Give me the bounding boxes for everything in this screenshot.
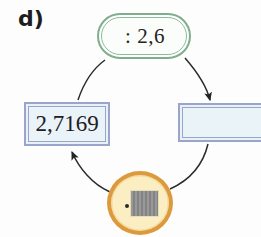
- display-node[interactable]: : 2,6: [97, 13, 191, 59]
- edge-device-to-result: [72, 152, 110, 192]
- edge-display-to-empty: [185, 58, 210, 100]
- empty-box[interactable]: [178, 103, 261, 142]
- figure-canvas: d) : 2,6 2,7169: [0, 0, 261, 237]
- result-box-label: 2,7169: [35, 111, 98, 137]
- display-node-label: : 2,6: [123, 24, 165, 49]
- calculator-chip-icon: [130, 190, 159, 217]
- empty-box-frame: [182, 107, 261, 138]
- result-box[interactable]: 2,7169: [24, 102, 110, 146]
- edge-result-to-display: [78, 60, 105, 100]
- device-node[interactable]: [107, 171, 173, 235]
- result-box-frame: 2,7169: [28, 106, 106, 142]
- device-indicator-dot: [125, 204, 129, 208]
- display-node-screen: : 2,6: [101, 17, 187, 55]
- edge-empty-to-device: [170, 144, 208, 189]
